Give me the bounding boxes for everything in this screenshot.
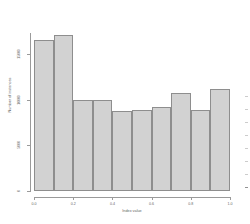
x-axis-tick bbox=[191, 197, 192, 200]
x-axis-tick bbox=[73, 197, 74, 200]
x-axis-tick bbox=[112, 197, 113, 200]
x-axis-tick bbox=[152, 197, 153, 200]
y-axis-line bbox=[30, 33, 31, 192]
histogram-bar bbox=[112, 111, 132, 191]
y-axis-tick bbox=[27, 145, 30, 146]
right-edge-gutter bbox=[240, 96, 250, 200]
y-axis-tick bbox=[27, 54, 30, 55]
gutter-mark bbox=[245, 174, 248, 175]
x-axis-title: Index value bbox=[34, 209, 230, 213]
x-axis-tick-label: 1.0 bbox=[228, 202, 233, 206]
histogram-bar bbox=[132, 110, 152, 191]
histogram-bar bbox=[171, 93, 191, 191]
gutter-mark bbox=[245, 187, 248, 188]
histogram-bar bbox=[54, 35, 74, 191]
y-axis-tick bbox=[27, 191, 30, 192]
x-axis-tick-label: 0.0 bbox=[32, 202, 37, 206]
x-axis-tick-label: 0.8 bbox=[188, 202, 193, 206]
plot-area bbox=[34, 8, 230, 191]
histogram-bar bbox=[191, 110, 211, 191]
y-axis-tick bbox=[27, 100, 30, 101]
x-axis-tick-label: 0.2 bbox=[71, 202, 76, 206]
x-axis-line bbox=[34, 197, 230, 198]
gutter-mark bbox=[245, 96, 248, 97]
x-axis-tick-label: 0.4 bbox=[110, 202, 115, 206]
gutter-mark bbox=[245, 161, 248, 162]
y-axis-title: Number of instances bbox=[5, 60, 15, 130]
gutter-mark bbox=[245, 122, 248, 123]
histogram-bar bbox=[210, 89, 230, 191]
histogram-figure: Number of instances 050001000015000 0.00… bbox=[0, 0, 250, 224]
gutter-mark bbox=[245, 148, 248, 149]
histogram-bar bbox=[93, 100, 113, 191]
histogram-bar bbox=[73, 100, 93, 191]
gutter-mark bbox=[245, 135, 248, 136]
histogram-bar bbox=[34, 40, 54, 191]
x-axis-tick bbox=[34, 197, 35, 200]
x-axis-tick bbox=[230, 197, 231, 200]
histogram-bar bbox=[152, 107, 172, 191]
gutter-mark bbox=[245, 109, 248, 110]
y-axis-title-text: Number of instances bbox=[8, 78, 12, 113]
x-axis-tick-label: 0.6 bbox=[149, 202, 154, 206]
